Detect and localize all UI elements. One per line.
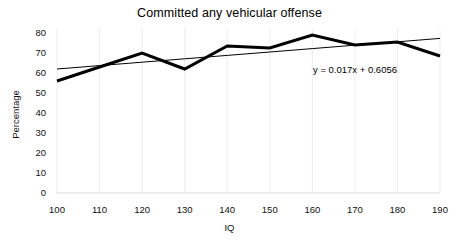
chart-container: Committed any vehicular offense 01020304… <box>0 0 459 241</box>
y-tick-label: 30 <box>18 127 46 138</box>
trendline-equation-label: y = 0.017x + 0.6056 <box>313 64 397 75</box>
x-tick-label: 110 <box>80 204 120 215</box>
y-tick-label: 40 <box>18 107 46 118</box>
y-tick-label: 0 <box>18 187 46 198</box>
x-tick-label: 160 <box>292 204 332 215</box>
y-tick-label: 80 <box>18 27 46 38</box>
x-axis-title: IQ <box>0 222 459 233</box>
x-tick-label: 130 <box>165 204 205 215</box>
x-tick-label: 120 <box>122 204 162 215</box>
gridlines <box>57 28 440 193</box>
x-tick-label: 170 <box>335 204 375 215</box>
x-tick-label: 100 <box>37 204 77 215</box>
y-axis-title: Percentage <box>10 79 21 151</box>
y-tick-label: 70 <box>18 47 46 58</box>
x-tick-label: 150 <box>250 204 290 215</box>
x-tick-label: 180 <box>377 204 417 215</box>
y-tick-label: 50 <box>18 87 46 98</box>
x-tick-label: 190 <box>420 204 459 215</box>
y-tick-label: 60 <box>18 67 46 78</box>
y-tick-label: 20 <box>18 147 46 158</box>
y-tick-label: 10 <box>18 167 46 178</box>
x-tick-label: 140 <box>207 204 247 215</box>
